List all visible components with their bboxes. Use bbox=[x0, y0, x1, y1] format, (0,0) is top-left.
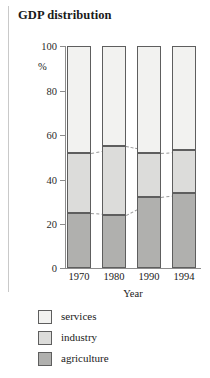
legend-swatch-services-icon bbox=[38, 310, 52, 324]
y-tick-100 bbox=[60, 46, 65, 47]
legend-label-agriculture: agriculture bbox=[61, 353, 109, 364]
bar-segment-industry-1970 bbox=[67, 153, 91, 213]
y-tick-label-60: 60 bbox=[47, 131, 58, 142]
bar-segment-services-1970 bbox=[67, 46, 91, 153]
y-tick-label-80: 80 bbox=[47, 87, 58, 98]
bar-segment-agriculture-1994 bbox=[172, 193, 196, 269]
legend-swatch-industry-icon bbox=[38, 331, 52, 345]
legend-label-services: services bbox=[61, 311, 96, 322]
plot-area bbox=[66, 46, 200, 268]
y-tick-label-100: 100 bbox=[41, 42, 57, 53]
y-tick-40 bbox=[60, 180, 65, 181]
bar-segment-industry-1994 bbox=[172, 150, 196, 192]
y-tick-label-20: 20 bbox=[47, 220, 58, 231]
legend-swatch-agriculture-icon bbox=[38, 352, 52, 366]
bar-segment-services-1980 bbox=[102, 46, 126, 146]
legend-label-industry: industry bbox=[61, 332, 97, 343]
y-tick-80 bbox=[60, 91, 65, 92]
bar-segment-industry-1990 bbox=[137, 153, 161, 197]
bar-segment-industry-1980 bbox=[102, 146, 126, 215]
bar-segment-agriculture-1990 bbox=[137, 197, 161, 268]
x-axis-line bbox=[65, 268, 201, 269]
legend-item-agriculture: agriculture bbox=[38, 348, 109, 369]
bar-segment-agriculture-1980 bbox=[102, 215, 126, 268]
y-axis-label: % bbox=[38, 62, 47, 73]
bar-segment-services-1990 bbox=[137, 46, 161, 153]
y-tick-0 bbox=[60, 268, 65, 269]
figure-left-rule bbox=[8, 6, 9, 292]
y-tick-label-40: 40 bbox=[47, 176, 58, 187]
x-tick-label-1994: 1994 bbox=[161, 272, 207, 283]
bar-segment-agriculture-1970 bbox=[67, 213, 91, 269]
y-tick-20 bbox=[60, 224, 65, 225]
y-tick-60 bbox=[60, 135, 65, 136]
bar-segment-services-1994 bbox=[172, 46, 196, 150]
chart-title: GDP distribution bbox=[18, 8, 112, 23]
legend-item-services: services bbox=[38, 306, 109, 327]
chart-legend: services industry agriculture bbox=[38, 306, 109, 369]
x-axis-label: Year bbox=[66, 288, 200, 299]
legend-item-industry: industry bbox=[38, 327, 109, 348]
gdp-distribution-chart: GDP distribution % 0 20 40 60 80 100 bbox=[0, 0, 210, 378]
